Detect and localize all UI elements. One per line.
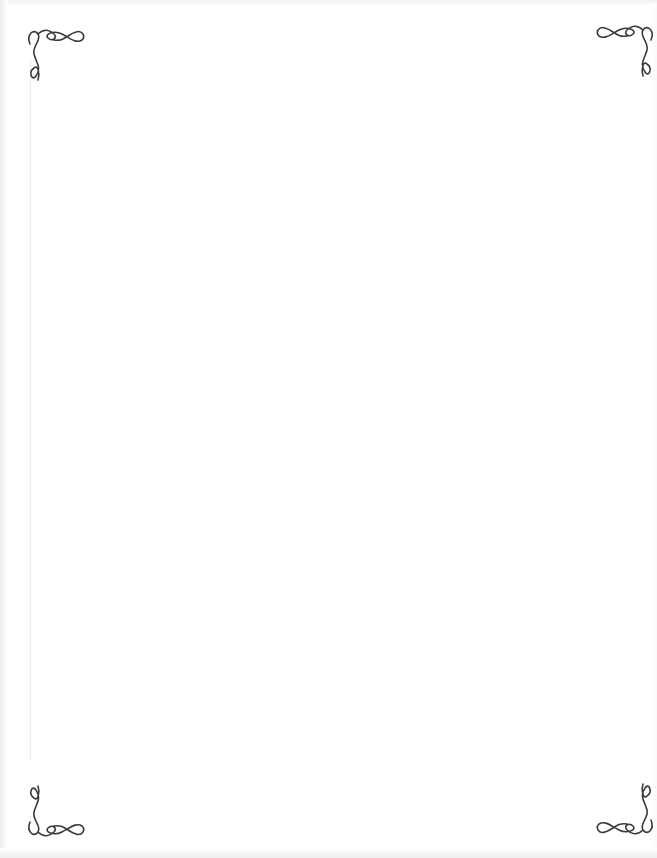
page-edge-top [0, 0, 657, 6]
page-edge-bottom [0, 848, 657, 858]
corner-flourish-icon [595, 778, 657, 840]
corner-flourish-icon [24, 24, 86, 86]
blank-page [0, 0, 657, 858]
corner-flourish-icon [595, 20, 657, 82]
corner-flourish-icon [24, 780, 86, 842]
page-edge-left [0, 0, 8, 858]
margin-line [30, 60, 31, 760]
